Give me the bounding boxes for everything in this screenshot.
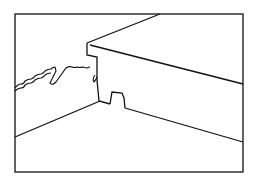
frame-border (15, 14, 243, 172)
notch-outline (110, 92, 125, 108)
front-left-outline (87, 43, 110, 104)
floor-line (15, 101, 100, 137)
torn-wall-line (15, 67, 97, 91)
top-left-edge (87, 14, 160, 43)
top-right-edge (90, 45, 243, 84)
bottom-right-edge (125, 108, 243, 142)
joint-illustration (0, 0, 259, 181)
